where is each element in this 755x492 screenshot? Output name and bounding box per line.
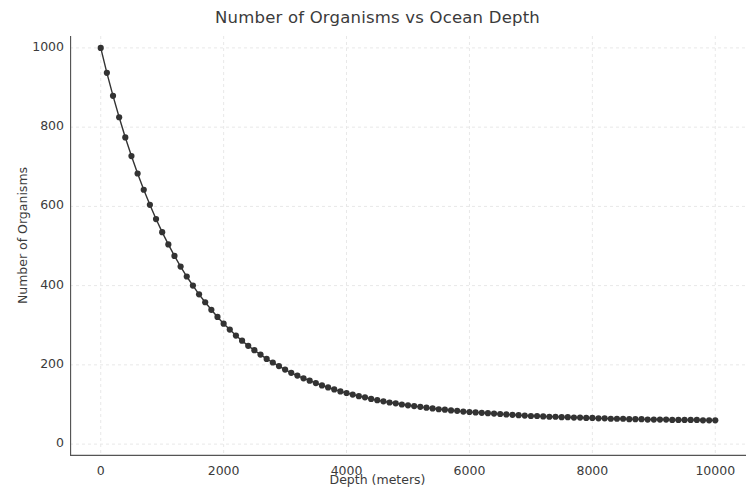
- data-point-marker: [608, 416, 614, 422]
- axis-spines: [70, 36, 746, 456]
- tick-marks: [70, 48, 715, 456]
- data-point-marker: [645, 416, 651, 422]
- data-point-marker: [460, 409, 466, 415]
- data-point-marker: [448, 407, 454, 413]
- data-point-marker: [577, 414, 583, 420]
- data-point-marker: [503, 411, 509, 417]
- data-point-marker: [602, 415, 608, 421]
- data-point-marker: [626, 416, 632, 422]
- data-point-marker: [565, 414, 571, 420]
- data-point-marker: [343, 390, 349, 396]
- data-point-marker: [651, 416, 657, 422]
- data-point-marker: [141, 187, 147, 193]
- data-point-marker: [251, 347, 257, 353]
- y-tick-label: 1000: [8, 39, 64, 54]
- data-point-marker: [429, 405, 435, 411]
- data-point-marker: [454, 408, 460, 414]
- data-point-marker: [190, 283, 196, 289]
- chart-figure: Number of Organisms vs Ocean Depth 02004…: [0, 0, 755, 492]
- data-point-marker: [288, 370, 294, 376]
- data-point-marker: [135, 170, 141, 176]
- data-point-marker: [614, 416, 620, 422]
- x-axis-label: Depth (meters): [0, 472, 755, 487]
- data-point-marker: [98, 45, 104, 51]
- data-point-marker: [417, 404, 423, 410]
- data-point-marker: [122, 134, 128, 140]
- data-point-marker: [399, 401, 405, 407]
- data-point-marker: [712, 417, 718, 423]
- data-point-marker: [350, 391, 356, 397]
- data-point-marker: [116, 114, 122, 120]
- data-point-marker: [245, 343, 251, 349]
- data-point-marker: [165, 241, 171, 247]
- data-point-marker: [208, 307, 214, 313]
- data-point-marker: [368, 396, 374, 402]
- data-point-marker: [147, 202, 153, 208]
- data-point-marker: [184, 273, 190, 279]
- data-point-marker: [171, 253, 177, 259]
- data-point-marker: [276, 363, 282, 369]
- data-point-marker: [257, 351, 263, 357]
- data-point-marker: [356, 393, 362, 399]
- data-point-marker: [405, 402, 411, 408]
- data-point-marker: [638, 416, 644, 422]
- data-point-marker: [534, 413, 540, 419]
- data-point-marker: [571, 414, 577, 420]
- data-point-marker: [589, 415, 595, 421]
- y-tick-label: 800: [8, 118, 64, 133]
- data-point-marker: [663, 416, 669, 422]
- data-point-marker: [337, 388, 343, 394]
- data-point-marker: [128, 153, 134, 159]
- data-point-marker: [374, 397, 380, 403]
- data-point-marker: [442, 407, 448, 413]
- data-point-marker: [688, 417, 694, 423]
- data-point-marker: [282, 367, 288, 373]
- data-point-marker: [423, 405, 429, 411]
- data-point-marker: [479, 410, 485, 416]
- data-point-marker: [227, 327, 233, 333]
- data-point-marker: [380, 398, 386, 404]
- data-point-marker: [294, 372, 300, 378]
- data-point-marker: [620, 416, 626, 422]
- data-point-marker: [540, 413, 546, 419]
- data-point-marker: [552, 414, 558, 420]
- data-point-marker: [700, 417, 706, 423]
- data-point-marker: [559, 414, 565, 420]
- data-point-marker: [528, 413, 534, 419]
- y-tick-label: 0: [8, 435, 64, 450]
- data-point-marker: [325, 384, 331, 390]
- data-point-marker: [466, 409, 472, 415]
- data-point-marker: [473, 409, 479, 415]
- data-point-marker: [270, 359, 276, 365]
- data-point-marker: [522, 412, 528, 418]
- data-point-marker: [110, 93, 116, 99]
- chart-title: Number of Organisms vs Ocean Depth: [0, 8, 755, 27]
- data-point-marker: [546, 414, 552, 420]
- data-point-marker: [497, 411, 503, 417]
- data-point-marker: [509, 412, 515, 418]
- data-point-marker: [706, 417, 712, 423]
- data-point-marker: [239, 338, 245, 344]
- data-point-marker: [583, 415, 589, 421]
- data-point-marker: [178, 264, 184, 270]
- plot-area: 02004006008001000 0200040006000800010000: [70, 36, 746, 456]
- data-point-marker: [313, 380, 319, 386]
- plot-svg: [70, 36, 746, 456]
- data-point-marker: [411, 403, 417, 409]
- data-point-marker: [657, 416, 663, 422]
- data-point-marker: [300, 375, 306, 381]
- data-point-marker: [221, 321, 227, 327]
- data-point-marker: [393, 400, 399, 406]
- grid-lines: [70, 36, 746, 456]
- y-tick-label: 200: [8, 356, 64, 371]
- data-point-marker: [386, 399, 392, 405]
- data-point-marker: [675, 417, 681, 423]
- data-point-marker: [681, 417, 687, 423]
- data-point-marker: [153, 216, 159, 222]
- data-point-marker: [104, 70, 110, 76]
- data-point-marker: [214, 314, 220, 320]
- data-point-marker: [307, 378, 313, 384]
- data-point-marker: [436, 406, 442, 412]
- data-point-marker: [331, 386, 337, 392]
- data-point-marker: [264, 356, 270, 362]
